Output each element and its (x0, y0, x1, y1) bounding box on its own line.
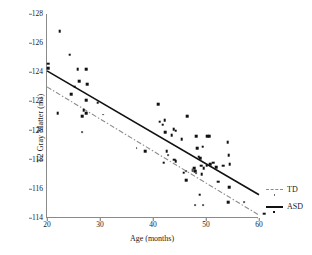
data-point-asd (157, 103, 160, 106)
x-axis-tick-label: 60 (255, 221, 263, 229)
data-point-asd (68, 54, 71, 57)
y-axis-tick-label: 116 (32, 185, 43, 193)
data-point-td (194, 204, 196, 206)
data-point-td (167, 154, 169, 156)
data-point-asd (170, 134, 173, 137)
x-axis-tick-label: 20 (43, 221, 51, 229)
data-point-asd (200, 173, 203, 176)
y-axis-tick-mark (29, 72, 32, 73)
data-point-asd (86, 83, 89, 86)
data-point-asd (229, 163, 232, 166)
data-point-asd (161, 123, 164, 126)
data-point-asd (227, 201, 230, 204)
y-axis-tick-mark (29, 43, 32, 44)
y-axis-tick-label: 122 (32, 98, 43, 106)
data-point-asd (174, 129, 177, 132)
data-point-asd (78, 80, 81, 83)
data-point-asd (180, 138, 183, 141)
data-point-asd (208, 135, 211, 138)
data-point-asd (198, 193, 201, 196)
data-point-td (185, 170, 187, 172)
data-point-asd (81, 115, 84, 118)
x-axis-tick-mark (100, 218, 101, 221)
plot-area: 1141161181201221241261282030405060 (46, 14, 258, 218)
data-point-asd (185, 179, 188, 182)
data-point-asd (205, 164, 208, 167)
data-point-asd (56, 112, 59, 115)
data-point-asd (58, 30, 61, 33)
data-point-asd (228, 186, 231, 189)
legend-label-asd: ASD (287, 203, 303, 211)
data-point-asd (70, 93, 73, 96)
y-axis-tick-label: 120 (32, 127, 43, 135)
data-point-asd (222, 164, 225, 167)
data-point-asd (195, 135, 198, 138)
data-point-asd (163, 119, 166, 122)
x-axis-tick-mark (153, 218, 154, 221)
data-point-asd (97, 102, 100, 105)
y-axis-tick-mark (29, 188, 32, 189)
data-point-asd (47, 67, 50, 70)
data-point-asd (203, 167, 206, 170)
data-point-td (136, 147, 138, 149)
x-axis-tick-mark (259, 218, 260, 221)
data-point-asd (226, 141, 229, 144)
data-point-asd (162, 161, 165, 164)
data-point-td (196, 172, 198, 174)
legend-item-td: TD (266, 186, 312, 203)
asd-line-key-icon (266, 206, 283, 208)
y-axis-tick-mark (29, 159, 32, 160)
x-axis-tick-label: 30 (96, 221, 104, 229)
y-axis-tick-mark (29, 101, 32, 102)
y-axis-tick-mark (29, 14, 32, 15)
td-marker-icon (274, 194, 276, 196)
y-axis-tick-label: 124 (32, 69, 43, 77)
x-axis-tick-mark (47, 218, 48, 221)
data-point-asd (144, 150, 147, 153)
data-point-asd (47, 62, 50, 65)
data-point-asd (164, 131, 167, 134)
data-point-asd (186, 115, 189, 118)
legend-label-td: TD (287, 186, 298, 194)
data-point-asd (217, 180, 220, 183)
y-axis-tick-label: 118 (32, 156, 43, 164)
data-point-asd (76, 68, 79, 71)
asd-marker-icon (273, 211, 275, 213)
x-axis-tick-label: 40 (149, 221, 157, 229)
legend: TD ASD (266, 186, 312, 220)
data-point-asd (199, 157, 202, 160)
x-axis-tick-label: 50 (202, 221, 210, 229)
fit-line-asd (47, 71, 259, 195)
data-point-asd (227, 154, 230, 157)
data-point-td (102, 114, 104, 116)
data-point-asd (215, 166, 218, 169)
y-axis-tick-mark (29, 130, 32, 131)
data-point-asd (73, 86, 76, 89)
data-point-asd (212, 161, 215, 164)
scatter-plot-figure: T2 Gray Matter (ms) Age (months) 1141161… (0, 0, 312, 255)
y-axis-tick-mark (29, 218, 32, 219)
td-line-key-icon (266, 189, 283, 190)
y-axis-tick-label: 114 (32, 214, 43, 222)
x-axis-title: Age (months) (46, 234, 258, 243)
data-point-asd (165, 150, 168, 153)
data-point-td (192, 169, 194, 171)
data-point-asd (85, 99, 88, 102)
data-point-asd (85, 112, 88, 115)
data-point-td (243, 201, 245, 203)
y-axis-tick-label: 128 (32, 10, 43, 18)
data-point-asd (196, 147, 199, 150)
data-point-asd (202, 145, 205, 148)
data-point-asd (174, 160, 177, 163)
data-point-td (202, 204, 204, 206)
fit-line-td (47, 87, 259, 215)
data-point-asd (85, 68, 88, 71)
y-axis-tick-label: 126 (32, 39, 43, 47)
data-point-td (81, 131, 83, 133)
x-axis-tick-mark (206, 218, 207, 221)
legend-item-asd: ASD (266, 203, 312, 220)
